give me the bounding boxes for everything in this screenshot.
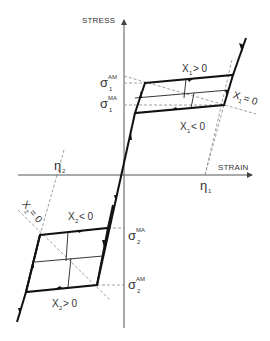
svg-text:< 0: < 0 [79, 211, 94, 222]
lower-loop [26, 228, 108, 292]
svg-text:< 0: < 0 [191, 121, 206, 132]
svg-text:σ: σ [100, 75, 108, 90]
reference-lines [18, 60, 256, 300]
svg-text:2: 2 [137, 288, 141, 294]
svg-text:MA: MA [136, 227, 145, 233]
svg-text:= 0: = 0 [242, 92, 259, 107]
svg-text:X: X [52, 298, 59, 309]
svg-text:MA: MA [108, 95, 117, 101]
svg-text:X: X [182, 63, 189, 74]
upper-loop [135, 75, 233, 113]
svg-text:η: η [54, 158, 61, 173]
sigma1-ma-label: σ 1 MA [100, 95, 117, 113]
svg-text:> 0: > 0 [193, 63, 208, 74]
svg-text:2: 2 [137, 239, 141, 245]
sigma2-ma-label: σ 2 MA [128, 227, 145, 245]
svg-text:X: X [68, 211, 75, 222]
stress-axis-label: STRESS [82, 16, 115, 25]
svg-text:1: 1 [109, 86, 113, 92]
svg-text:> 0: > 0 [63, 298, 78, 309]
svg-text:2: 2 [62, 168, 66, 174]
hysteresis-diagram: STRESS STRAIN σ 1 AM σ 1 MA σ 2 MA σ 2 A… [0, 0, 270, 341]
sigma1-am-label: σ 1 AM [100, 74, 117, 92]
x1-negative-label: X 1 < 0 [180, 121, 206, 134]
svg-text:X: X [180, 121, 187, 132]
eta1-label: η 1 [200, 178, 212, 194]
x2-zero-label: X 2 = 0 [19, 199, 45, 227]
eta2-label: η 2 [54, 158, 66, 174]
svg-text:1: 1 [109, 107, 113, 113]
x2-positive-label: X 2 > 0 [52, 298, 78, 311]
x2-negative-label: X 2 < 0 [68, 211, 94, 224]
svg-text:σ: σ [128, 228, 136, 243]
svg-text:AM: AM [108, 74, 117, 80]
x1-positive-label: X 1 > 0 [182, 63, 208, 76]
svg-text:σ: σ [100, 96, 108, 111]
svg-text:1: 1 [208, 188, 212, 194]
svg-text:σ: σ [128, 277, 136, 292]
svg-text:AM: AM [136, 276, 145, 282]
svg-text:η: η [200, 178, 207, 193]
strain-axis-label: STRAIN [218, 163, 249, 172]
sigma2-am-label: σ 2 AM [128, 276, 145, 294]
x1-zero-label: X 1 = 0 [231, 89, 259, 109]
